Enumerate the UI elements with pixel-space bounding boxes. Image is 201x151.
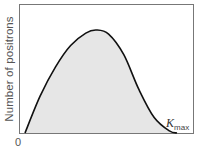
kmax-label: Kmax [166, 116, 189, 132]
origin-label: 0 [15, 136, 21, 148]
y-axis-label: Number of positrons [0, 4, 18, 133]
